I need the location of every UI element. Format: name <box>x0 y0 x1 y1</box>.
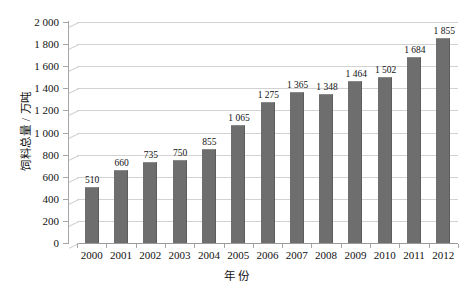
y-axis-tick-label: 1 800 <box>34 38 59 50</box>
y-axis-tick-label: 200 <box>43 215 60 227</box>
gridline-perspective-tab <box>69 22 79 28</box>
x-axis-tick-label: 2012 <box>432 249 454 261</box>
y-axis-tick <box>63 88 69 89</box>
bar-item: 750 <box>173 160 187 243</box>
x-axis-tick-label: 2005 <box>227 249 249 261</box>
gridline-perspective-tab <box>69 177 79 183</box>
x-axis-tick <box>224 244 225 248</box>
gridline-perspective-tab <box>69 44 79 50</box>
x-axis-tick-label: 2001 <box>110 249 132 261</box>
gridline-perspective-tab <box>69 88 79 94</box>
bar <box>85 187 99 243</box>
x-axis-tick <box>399 244 400 248</box>
bar <box>348 81 362 243</box>
bar <box>143 162 157 243</box>
gridline-perspective-tab <box>69 221 79 227</box>
x-axis-tick <box>458 244 459 248</box>
bar <box>261 102 275 243</box>
bar-value-label: 1 502 <box>375 65 396 75</box>
bar-value-label: 1 855 <box>434 26 455 36</box>
y-axis-tick-label: 400 <box>43 193 60 205</box>
y-axis-tick-label: 800 <box>43 149 60 161</box>
bar <box>407 57 421 243</box>
bar-value-label: 735 <box>144 150 158 160</box>
gridline-perspective-tab <box>69 110 79 116</box>
gridline <box>77 44 458 45</box>
bar <box>319 94 333 243</box>
x-axis-tick <box>429 244 430 248</box>
y-axis-title: 饲料总量 / 万吨 <box>17 31 33 231</box>
x-axis-tick-label: 2009 <box>344 249 366 261</box>
gridline-perspective-tab <box>69 199 79 205</box>
y-axis-tick <box>63 155 69 156</box>
bar-value-label: 510 <box>85 175 99 185</box>
x-axis-tick <box>253 244 254 248</box>
x-axis-tick-label: 2003 <box>169 249 191 261</box>
gridline-perspective-tab <box>69 133 79 139</box>
bar-value-label: 855 <box>202 137 216 147</box>
x-axis: 2000200120022003200420052006200720082009… <box>77 244 458 264</box>
bar-item: 510 <box>85 187 99 243</box>
bar-item: 1 684 <box>407 57 421 243</box>
bar-value-label: 1 684 <box>404 45 425 55</box>
x-axis-title: 年份 <box>0 267 475 283</box>
x-axis-tick-label: 2004 <box>198 249 220 261</box>
bar-item: 1 065 <box>231 125 245 243</box>
y-axis-tick-label: 0 <box>54 237 60 249</box>
gridline <box>77 66 458 67</box>
x-axis-tick <box>370 244 371 248</box>
x-axis-tick <box>77 244 78 248</box>
gridline-perspective-tab <box>69 66 79 72</box>
y-axis-tick-label: 1 000 <box>34 127 59 139</box>
y-axis-tick <box>63 22 69 23</box>
y-axis-tick <box>63 177 69 178</box>
bar <box>173 160 187 243</box>
x-axis-tick <box>282 244 283 248</box>
y-axis-tick-label: 2 000 <box>34 16 59 28</box>
bar-value-label: 750 <box>173 148 187 158</box>
y-axis-tick <box>63 199 69 200</box>
bar <box>436 38 450 243</box>
x-axis-tick <box>165 244 166 248</box>
x-axis-tick <box>194 244 195 248</box>
x-axis-tick-label: 2007 <box>286 249 308 261</box>
x-axis-tick <box>341 244 342 248</box>
y-axis-tick <box>63 221 69 222</box>
bar-item: 735 <box>143 162 157 243</box>
x-axis-tick <box>311 244 312 248</box>
bar <box>378 77 392 243</box>
bar-item: 1 348 <box>319 94 333 243</box>
x-axis-tick-label: 2006 <box>257 249 279 261</box>
x-axis-tick-label: 2010 <box>374 249 396 261</box>
bar-value-label: 1 348 <box>316 82 337 92</box>
y-axis-tick <box>63 133 69 134</box>
bar-item: 1 855 <box>436 38 450 243</box>
x-axis-tick <box>136 244 137 248</box>
y-axis-tick <box>63 110 69 111</box>
x-axis-tick-label: 2002 <box>139 249 161 261</box>
x-axis-tick-label: 2000 <box>81 249 103 261</box>
bar-chart: 饲料总量 / 万吨 02004006008001 0001 2001 4001 … <box>0 0 475 295</box>
bar-item: 855 <box>202 149 216 243</box>
bar-value-label: 1 365 <box>287 80 308 90</box>
y-axis-tick-label: 1 400 <box>34 82 59 94</box>
bar <box>114 170 128 243</box>
y-axis-tick-label: 1 600 <box>34 60 59 72</box>
bar-item: 1 275 <box>261 102 275 243</box>
bar-item: 1 365 <box>290 92 304 243</box>
bar-value-label: 1 065 <box>228 113 249 123</box>
y-axis-tick-label: 1 200 <box>34 104 59 116</box>
bar <box>202 149 216 243</box>
y-axis-tick-label: 600 <box>43 171 60 183</box>
bar <box>290 92 304 243</box>
bar-value-label: 1 464 <box>346 69 367 79</box>
bar <box>231 125 245 243</box>
y-axis-tick <box>63 44 69 45</box>
bar-item: 1 502 <box>378 77 392 243</box>
bar-value-label: 660 <box>114 158 128 168</box>
y-axis-tick <box>63 66 69 67</box>
plot-area: 02004006008001 0001 2001 4001 6001 8002 … <box>77 22 458 243</box>
x-axis-tick-label: 2008 <box>315 249 337 261</box>
gridline-perspective-tab <box>69 155 79 161</box>
x-axis-tick-label: 2011 <box>403 249 425 261</box>
